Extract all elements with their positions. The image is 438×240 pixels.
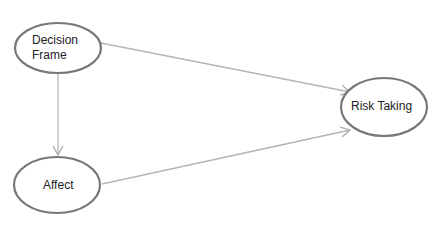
decision-frame-label: Decision Frame [32, 33, 78, 63]
risk-taking-label: Risk Taking [351, 99, 412, 114]
edge-affect-to-risk-taking [102, 130, 350, 184]
decision-frame-label-line1: Decision [32, 33, 78, 48]
decision-frame-label-line2: Frame [32, 48, 78, 63]
affect-label: Affect [43, 178, 73, 193]
edge-decision-frame-to-risk-taking [101, 43, 350, 92]
